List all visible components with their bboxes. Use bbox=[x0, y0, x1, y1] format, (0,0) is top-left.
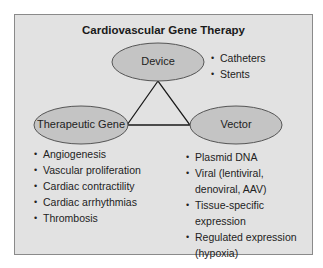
therapeutic-gene-label: Therapeutic Gene bbox=[34, 118, 128, 130]
list-item: Thrombosis bbox=[34, 210, 141, 226]
therapeutic-gene-list: Angiogenesis Vascular proliferation Card… bbox=[34, 146, 141, 226]
list-item: Angiogenesis bbox=[34, 146, 141, 162]
device-label: Device bbox=[112, 55, 204, 67]
device-list: Catheters Stents bbox=[211, 50, 266, 82]
list-item: Vascular proliferation bbox=[34, 162, 141, 178]
list-item: Regulated expression (hypoxia) bbox=[186, 229, 311, 261]
list-item: Catheters bbox=[211, 50, 266, 66]
connection-triangle bbox=[127, 81, 190, 125]
list-item: Cardiac contractility bbox=[34, 178, 141, 194]
list-item: Viral (lentiviral, denoviral, AAV) bbox=[186, 165, 311, 197]
list-item: Cardiac arrhythmias bbox=[34, 194, 141, 210]
list-item: Stents bbox=[211, 66, 266, 82]
vector-list: Plasmid DNA Viral (lentiviral, denoviral… bbox=[186, 149, 311, 261]
list-item: Tissue-specific expression bbox=[186, 197, 311, 229]
list-item: Plasmid DNA bbox=[186, 149, 311, 165]
vector-label: Vector bbox=[190, 118, 282, 130]
